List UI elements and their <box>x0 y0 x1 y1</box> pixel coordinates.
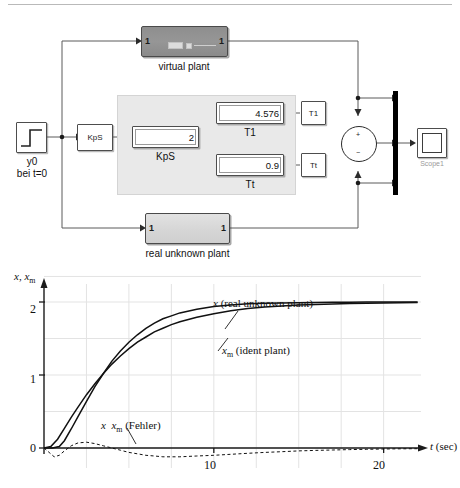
chart-annotation-x: x (real unknown plant) <box>213 297 313 309</box>
chart-ytick-2: 2 <box>30 302 36 317</box>
t1-constant-block[interactable]: T1 <box>301 101 326 125</box>
chart-annotation-xm: xm (ident plant) <box>222 344 290 359</box>
step-source-block[interactable] <box>16 122 47 153</box>
chart-canvas <box>0 258 460 488</box>
real-plant-out-port: 1 <box>221 224 226 233</box>
kps-display-block[interactable]: 2 <box>132 126 199 148</box>
top-divider <box>8 4 452 5</box>
t1-display-caption: T1 <box>216 127 284 138</box>
step-source-label-line1: y0 <box>4 156 60 167</box>
virtual-plant-block[interactable]: 1 1 <box>141 26 228 57</box>
scope-screen <box>422 133 442 153</box>
step-response-chart: x, xm t (sec) 0 1 2 10 20 x (real unknow… <box>0 258 460 488</box>
virtual-plant-caption: virtual plant <box>134 61 234 72</box>
tt-constant-label: Tt <box>310 161 317 170</box>
real-unknown-plant-block[interactable]: 1 1 <box>145 213 230 244</box>
virtual-plant-inner-shape-1 <box>168 42 183 49</box>
sum-sign-bottom: − <box>356 149 360 156</box>
tt-constant-block[interactable]: Tt <box>301 153 326 177</box>
kps-constant-block[interactable]: KpS <box>77 124 113 151</box>
chart-xtick-10: 10 <box>204 458 216 473</box>
tt-display-value: 0.9 <box>266 160 279 171</box>
chart-ytick-0: 0 <box>30 441 36 456</box>
t1-display-value: 4.576 <box>255 108 279 119</box>
chart-ytick-1: 1 <box>30 372 36 387</box>
block-diagram: y0 bei t=0 1 1 virtual plant KpS 2 KpS 4… <box>0 8 460 256</box>
tt-display-block[interactable]: 0.9 <box>216 154 284 176</box>
kps-display-caption: KpS <box>132 151 199 162</box>
tt-display-caption: Tt <box>216 179 284 190</box>
chart-xlabel: t (sec) <box>430 440 457 452</box>
page-root: y0 bei t=0 1 1 virtual plant KpS 2 KpS 4… <box>0 0 460 488</box>
virtual-plant-out-port: 1 <box>219 37 224 46</box>
mux-block[interactable] <box>393 91 398 195</box>
step-icon <box>17 123 46 152</box>
kps-display-bezel <box>135 129 196 145</box>
kps-constant-label: KpS <box>87 133 102 142</box>
chart-annotation-error: x xm (Fehler) <box>101 419 161 434</box>
sum-sign-top: + <box>356 131 360 138</box>
t1-constant-label: T1 <box>309 109 318 118</box>
virtual-plant-inner-shape-3 <box>194 45 216 46</box>
real-plant-in-port: 1 <box>149 224 154 233</box>
t1-display-block[interactable]: 4.576 <box>216 102 284 124</box>
scope-block[interactable] <box>417 128 447 158</box>
chart-xtick-20: 20 <box>373 458 385 473</box>
virtual-plant-inner-shape-2 <box>186 43 192 49</box>
sum-block[interactable]: + − <box>341 126 377 162</box>
scope-caption: Scope1 <box>412 160 452 167</box>
chart-ylabel: x, xm <box>14 270 35 285</box>
chart-series-2 <box>44 442 418 457</box>
step-source-label-line2: bei t=0 <box>0 168 64 179</box>
kps-display-value: 2 <box>189 132 194 143</box>
virtual-plant-in-port: 1 <box>145 37 150 46</box>
